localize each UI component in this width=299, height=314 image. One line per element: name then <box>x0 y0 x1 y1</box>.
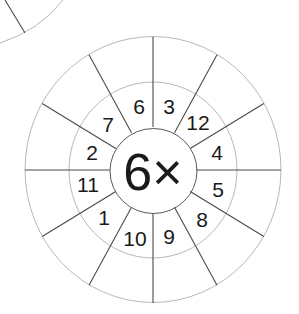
center-label: 6× <box>123 143 182 201</box>
factor-number: 11 <box>77 173 99 196</box>
multiplication-wheel: 631245891011127 6× <box>0 0 299 314</box>
factor-number: 6 <box>133 95 145 118</box>
factor-number: 9 <box>163 225 175 248</box>
neighbor-spoke <box>5 0 25 33</box>
factor-number: 3 <box>163 95 175 118</box>
factor-number: 2 <box>86 141 98 164</box>
factor-number: 12 <box>186 111 209 134</box>
factor-number: 7 <box>102 113 114 136</box>
factor-number: 5 <box>212 178 224 201</box>
factor-number: 4 <box>211 141 223 164</box>
factor-number: 8 <box>196 208 208 231</box>
factor-number: 1 <box>98 206 110 229</box>
wheel-6: 631245891011127 6× <box>25 37 281 304</box>
factor-number: 10 <box>123 227 146 250</box>
partial-neighbor-wheel <box>0 0 63 43</box>
